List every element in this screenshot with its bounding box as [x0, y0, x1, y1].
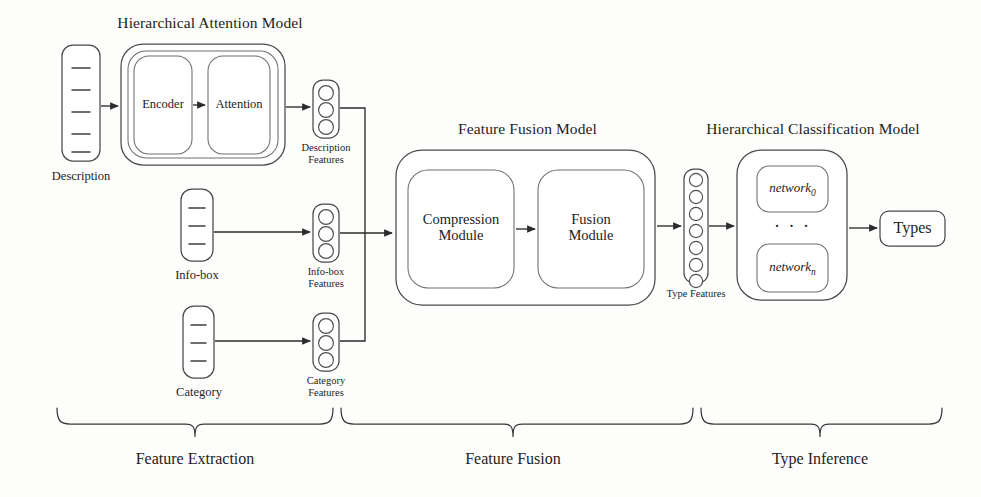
category-features-shape	[313, 313, 339, 371]
description-input-shape	[62, 45, 100, 161]
diagram-vector-layer: .box { fill:#ffffff; stroke:#4a4a4a; str…	[0, 0, 981, 497]
stage-braces	[57, 408, 942, 437]
diagram-canvas: .box { fill:#ffffff; stroke:#4a4a4a; str…	[0, 0, 981, 497]
description-features-shape	[313, 80, 339, 138]
feature-fusion-model-shape	[396, 150, 655, 305]
hierarchical-classification-model-shape	[737, 150, 847, 300]
infobox-input-shape	[181, 189, 213, 261]
infobox-features-shape	[313, 204, 339, 262]
type-features-shape	[684, 169, 708, 288]
category-input-shape	[183, 306, 214, 378]
types-output-shape	[880, 211, 945, 246]
